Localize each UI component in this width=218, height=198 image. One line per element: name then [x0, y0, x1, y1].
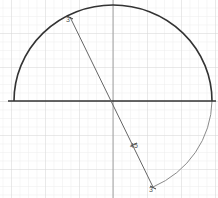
top-point-label: 3 — [66, 16, 70, 23]
segment-mid-label: 45 — [130, 142, 138, 149]
diagram-canvas: 3 45 3 — [0, 0, 218, 198]
bottom-point-label: 3 — [149, 186, 153, 193]
grid-major — [0, 0, 218, 198]
